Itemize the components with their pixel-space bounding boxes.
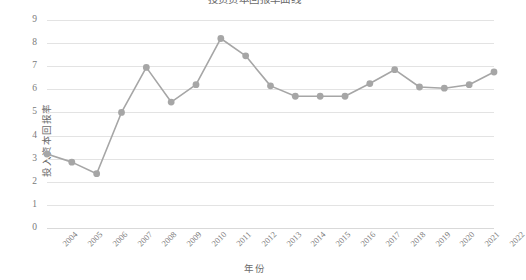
x-axis-tick-label: 2005 (86, 230, 104, 248)
plot-area (47, 20, 494, 228)
x-axis-tick-label: 2011 (235, 230, 253, 248)
data-point (366, 80, 373, 87)
x-axis-tick-label: 2022 (508, 230, 526, 248)
series-markers (44, 35, 498, 177)
x-axis-tick-label: 2014 (309, 230, 327, 248)
x-axis-tick-label: 2018 (409, 230, 427, 248)
x-axis-tick-label: 2010 (210, 230, 228, 248)
data-point (143, 64, 150, 71)
y-axis-tick-label: 0 (32, 223, 37, 233)
data-point (267, 82, 274, 89)
y-axis-tick-label: 9 (32, 15, 37, 25)
y-axis-tick-label: 8 (32, 38, 37, 48)
data-point (217, 35, 224, 42)
data-point (342, 93, 349, 100)
data-point (68, 159, 75, 166)
data-point (168, 99, 175, 106)
x-axis-tick-label: 2013 (284, 230, 302, 248)
x-axis-tick-label: 2020 (458, 230, 476, 248)
x-axis-tick-label: 2021 (483, 230, 501, 248)
x-axis-tick-label: 2015 (334, 230, 352, 248)
y-axis-tick-label: 7 (32, 61, 37, 71)
y-axis-tick-label: 4 (32, 131, 37, 141)
x-axis-tick-label: 2007 (135, 230, 153, 248)
y-axis-tick-label: 1 (32, 200, 37, 210)
data-point (466, 81, 473, 88)
data-point (93, 170, 100, 177)
y-axis-tick-label: 2 (32, 177, 37, 187)
y-axis-tick-label: 3 (32, 154, 37, 164)
data-point (416, 84, 423, 91)
data-point (441, 85, 448, 92)
x-axis-tick-label: 2017 (384, 230, 402, 248)
x-axis-tick-label: 2008 (160, 230, 178, 248)
data-point (193, 81, 200, 88)
x-axis-tick-label: 2004 (61, 230, 79, 248)
x-axis-title: 年份 (0, 261, 509, 275)
chart-title: 投资资本回报率曲线 (0, 0, 509, 5)
data-point (317, 93, 324, 100)
y-axis-tick-label: 5 (32, 108, 37, 118)
x-axis-tick-label: 2012 (260, 230, 278, 248)
data-point (242, 52, 249, 59)
data-point (391, 66, 398, 73)
x-axis-tick-labels: 2004200520062007200820092010201120122013… (47, 228, 494, 260)
data-point (491, 69, 498, 76)
series-line-path (47, 38, 494, 173)
data-point (44, 151, 51, 158)
series-layer (47, 20, 494, 228)
y-axis-tick-label: 6 (32, 85, 37, 95)
data-point (292, 93, 299, 100)
data-point (118, 109, 125, 116)
y-axis-tick-labels: 0123456789 (0, 20, 43, 228)
x-axis-tick-label: 2009 (185, 230, 203, 248)
x-axis-tick-label: 2016 (359, 230, 377, 248)
x-axis-tick-label: 2019 (433, 230, 451, 248)
x-axis-tick-label: 2006 (111, 230, 129, 248)
